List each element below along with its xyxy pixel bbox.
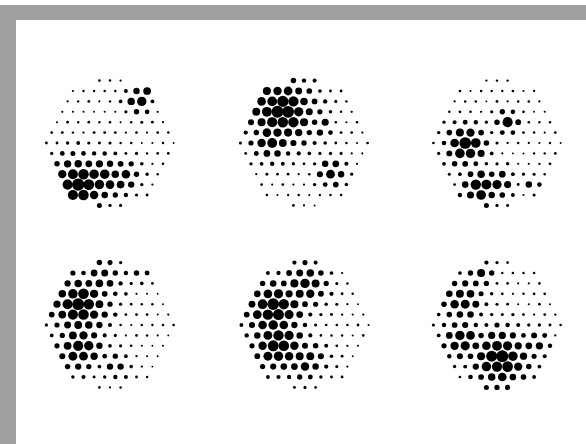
- halftone-circle-3: [432, 79, 561, 208]
- window-top-border: [0, 5, 586, 20]
- window-left-border: [0, 5, 16, 444]
- halftone-circle-1: [45, 79, 175, 208]
- halftone-circle-5: [239, 260, 369, 389]
- image-canvas: [16, 20, 586, 444]
- halftone-circles-grid: [16, 20, 586, 444]
- halftone-circle-4: [45, 260, 175, 389]
- halftone-circle-6: [432, 260, 562, 390]
- halftone-circle-2: [239, 78, 369, 207]
